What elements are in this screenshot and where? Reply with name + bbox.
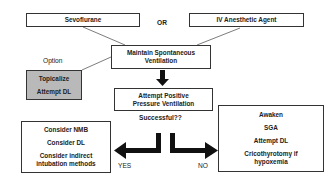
yes-box: Consider NMB Consider DL Consider indire… [21, 121, 111, 173]
yes-item-nmb: Consider NMB [44, 126, 88, 134]
no-item-awaken: Awaken [259, 111, 283, 119]
sevoflurane-label: Sevoflurane [65, 16, 102, 24]
yes-item-indirect-1: Consider indirect [40, 152, 93, 160]
ppv-line-2: Pressure Ventilation [133, 100, 194, 108]
option-item-attempt-dl: Attempt DL [37, 88, 71, 96]
option-label: Option [43, 57, 62, 64]
no-item-attempt-dl: Attempt DL [254, 137, 288, 145]
yes-item-dl: Consider DL [47, 139, 85, 147]
iv-agent-box: IV Anesthetic Agent [189, 13, 304, 27]
yes-label: YES [118, 162, 131, 169]
maintain-line-1: Maintain Spontaneous [127, 49, 195, 57]
iv-agent-label: IV Anesthetic Agent [217, 16, 277, 24]
or-label: OR [157, 19, 167, 26]
option-item-topicalize: Topicalize [39, 75, 69, 83]
maintain-line-2: Ventilation [145, 57, 177, 65]
maintain-ventilation-box: Maintain Spontaneous Ventilation [111, 45, 211, 69]
no-box: Awaken SGA Attempt DL Cricothyrotomy if … [218, 105, 324, 172]
successful-question: Successful?? [139, 114, 182, 121]
option-box: Topicalize Attempt DL [26, 70, 82, 100]
no-item-crico-1: Cricothyrotomy if [244, 150, 297, 158]
sevoflurane-box: Sevoflurane [26, 13, 140, 27]
ppv-box: Attempt Positive Pressure Ventilation [114, 88, 213, 111]
no-item-sga: SGA [264, 124, 278, 132]
no-label: NO [198, 162, 208, 169]
no-item-crico-2: hypoxemia [254, 158, 287, 166]
yes-item-indirect-2: intubation methods [36, 160, 95, 168]
ppv-line-1: Attempt Positive [138, 92, 188, 100]
